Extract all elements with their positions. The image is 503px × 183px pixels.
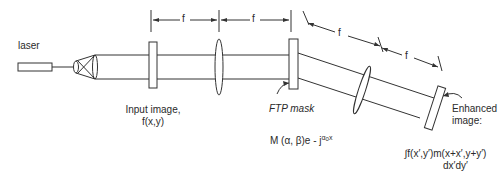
beam-expander <box>74 55 98 79</box>
ftp-mask-label: FTP mask <box>269 103 314 115</box>
input-image-label: Input image, f(x,y) <box>120 104 186 128</box>
input-image-label-line1: Input image, <box>120 104 186 116</box>
output-formula-line2: dx′dy′ <box>388 160 503 172</box>
mask-function-subscript: 0 <box>326 136 329 142</box>
dimension-label-f3: f <box>338 27 341 39</box>
output-plane <box>424 86 445 130</box>
mask-function-exponent: α0x <box>322 134 333 141</box>
dimension-label-f2: f <box>252 13 255 25</box>
mask-function-alpha: α <box>322 134 326 141</box>
ftp-mask-plate <box>289 39 298 89</box>
input-image-plate <box>149 42 157 88</box>
input-image-label-line2: f(x,y) <box>120 116 186 128</box>
enhanced-image-label-line1: Enhanced <box>452 103 497 115</box>
output-formula-line1: ∫f(x′,y′)m(x+x′,y+y′) <box>388 148 503 160</box>
ftp-mask-pointer <box>277 83 289 94</box>
laser-body <box>18 63 52 71</box>
lens-1 <box>215 39 223 95</box>
output-formula: ∫f(x′,y′)m(x+x′,y+y′) dx′dy′ <box>388 148 503 172</box>
mask-function-label: M (α, β)e - jα0x <box>270 135 332 148</box>
lens-2 <box>351 65 373 115</box>
enhanced-image-label-line2: image: <box>452 115 497 127</box>
mask-function-prefix: M (α, β)e - j <box>270 135 322 146</box>
mask-function-x: x <box>329 134 333 141</box>
enhanced-image-label: Enhanced image: <box>452 103 497 127</box>
laser-label: laser <box>18 40 40 52</box>
dimension-label-f1: f <box>182 13 185 25</box>
dimension-label-f4: f <box>405 50 408 62</box>
